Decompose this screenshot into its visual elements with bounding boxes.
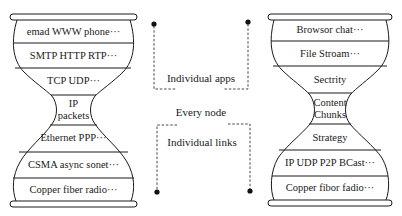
right-layer-label: Sectrity	[272, 74, 388, 86]
top-left-node-dot	[151, 21, 156, 26]
left-layer-label: SMTP HTTP RTP···	[14, 50, 133, 62]
right-bottom-cap	[268, 200, 392, 206]
left-layer-label: TCP UDP···	[14, 75, 133, 87]
right-layer-label: Strategy	[272, 132, 388, 144]
individual-apps-label: Individual apps	[160, 72, 242, 84]
right-top-cap	[268, 14, 392, 20]
top-right-node-dot	[245, 19, 250, 24]
left-waist-label: packets	[44, 110, 103, 122]
right-waist-label: Content	[302, 97, 358, 109]
right-layer-label: Browsor chat···	[272, 24, 388, 36]
individual-links-label: Individual links	[160, 136, 244, 148]
right-waist-label: Chunks	[302, 109, 358, 121]
left-bottom-cap	[10, 201, 137, 207]
right-layer-label: IP UDP P2P BCast···	[272, 157, 388, 169]
left-layer-label: CSMA async sonet···	[14, 159, 133, 171]
bottom-right-bracket	[228, 124, 250, 189]
left-waist-label: IP	[44, 98, 103, 110]
bottom-left-bracket	[157, 125, 177, 190]
left-top-cap	[10, 14, 137, 20]
right-layer-label: Copper fibor fadio···	[272, 182, 388, 194]
right-layer-label: File Stroam···	[272, 48, 388, 60]
bottom-left-node-dot	[154, 189, 159, 194]
left-layer-label: Copper fiber radio···	[14, 184, 133, 196]
left-layer-label: emad WWW phone···	[14, 26, 133, 38]
bottom-right-node-dot	[247, 188, 252, 193]
every-node-label: Every node	[160, 106, 242, 118]
left-layer-label: Ethernet PPP···	[14, 132, 133, 144]
